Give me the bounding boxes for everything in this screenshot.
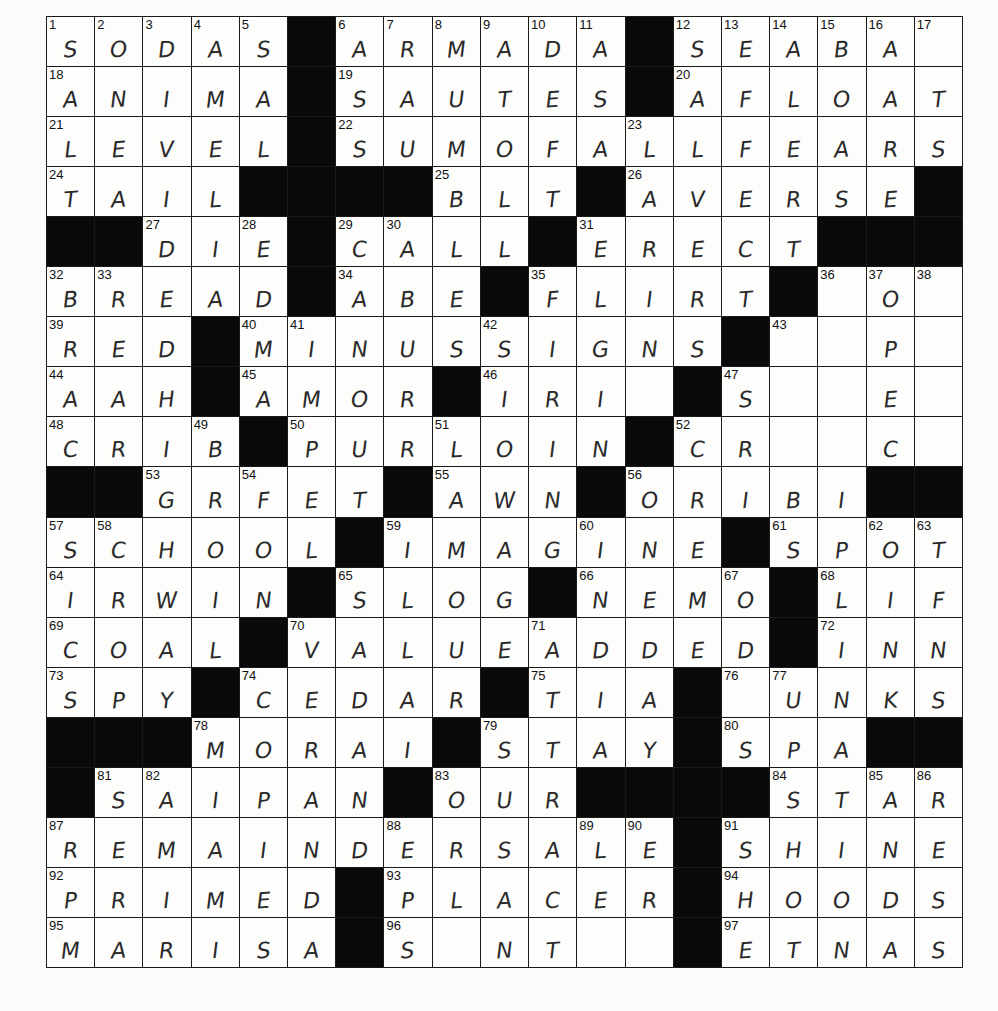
grid-cell[interactable]: U	[433, 618, 480, 667]
grid-cell[interactable]: B	[770, 467, 817, 516]
grid-cell[interactable]: H	[143, 518, 190, 567]
grid-cell[interactable]: S	[481, 818, 528, 867]
grid-cell[interactable]: U	[433, 67, 480, 116]
grid-cell[interactable]: 7R	[384, 17, 431, 66]
grid-cell[interactable]: R	[288, 718, 335, 767]
grid-cell[interactable]: S	[915, 668, 962, 717]
grid-cell[interactable]: I	[384, 718, 431, 767]
grid-cell[interactable]: R	[95, 868, 142, 917]
grid-cell[interactable]: 89L	[577, 818, 624, 867]
grid-cell[interactable]: 97E	[722, 918, 769, 967]
grid-cell[interactable]: 67O	[722, 568, 769, 617]
grid-cell[interactable]: 91S	[722, 818, 769, 867]
grid-cell[interactable]: A	[336, 718, 383, 767]
grid-cell[interactable]: 51L	[433, 417, 480, 466]
grid-cell[interactable]: E	[192, 117, 239, 166]
grid-cell[interactable]: D	[288, 868, 335, 917]
grid-cell[interactable]: 96S	[384, 918, 431, 967]
grid-cell[interactable]: R	[674, 467, 721, 516]
grid-cell[interactable]: M	[433, 117, 480, 166]
grid-cell[interactable]: U	[384, 317, 431, 366]
grid-cell[interactable]: 6A	[336, 17, 383, 66]
grid-cell[interactable]: 71A	[529, 618, 576, 667]
grid-cell[interactable]: U	[384, 117, 431, 166]
grid-cell[interactable]: 63T	[915, 518, 962, 567]
grid-cell[interactable]: E	[240, 868, 287, 917]
grid-cell[interactable]: 79S	[481, 718, 528, 767]
grid-cell[interactable]	[818, 417, 865, 466]
grid-cell[interactable]: L	[481, 167, 528, 216]
grid-cell[interactable]: 92P	[47, 868, 94, 917]
grid-cell[interactable]: 14A	[770, 17, 817, 66]
grid-cell[interactable]: I	[192, 217, 239, 266]
grid-cell[interactable]: N	[95, 67, 142, 116]
grid-cell[interactable]: 38	[915, 267, 962, 316]
grid-cell[interactable]: 33R	[95, 267, 142, 316]
grid-cell[interactable]: N	[626, 518, 673, 567]
grid-cell[interactable]: R	[626, 868, 673, 917]
grid-cell[interactable]: E	[433, 267, 480, 316]
grid-cell[interactable]: 68L	[818, 568, 865, 617]
grid-cell[interactable]: A	[529, 818, 576, 867]
grid-cell[interactable]: A	[192, 818, 239, 867]
grid-cell[interactable]: 16A	[867, 17, 914, 66]
grid-cell[interactable]: N	[915, 618, 962, 667]
grid-cell[interactable]: I	[626, 267, 673, 316]
grid-cell[interactable]: 59I	[384, 518, 431, 567]
grid-cell[interactable]: 69C	[47, 618, 94, 667]
grid-cell[interactable]: O	[95, 618, 142, 667]
grid-cell[interactable]: S	[577, 67, 624, 116]
grid-cell[interactable]: I	[143, 67, 190, 116]
grid-cell[interactable]: L	[384, 618, 431, 667]
grid-cell[interactable]: V	[674, 167, 721, 216]
grid-cell[interactable]: 93P	[384, 868, 431, 917]
grid-cell[interactable]: I	[143, 167, 190, 216]
grid-cell[interactable]: F	[915, 568, 962, 617]
grid-cell[interactable]: V	[143, 117, 190, 166]
grid-cell[interactable]: 9A	[481, 17, 528, 66]
grid-cell[interactable]: I	[577, 367, 624, 416]
grid-cell[interactable]: M	[288, 367, 335, 416]
grid-cell[interactable]: T	[915, 67, 962, 116]
grid-cell[interactable]: L	[192, 167, 239, 216]
grid-cell[interactable]: I	[192, 768, 239, 817]
grid-cell[interactable]: 2O	[95, 17, 142, 66]
grid-cell[interactable]	[915, 367, 962, 416]
grid-cell[interactable]: L	[481, 217, 528, 266]
grid-cell[interactable]: L	[192, 618, 239, 667]
grid-cell[interactable]: 41I	[288, 317, 335, 366]
grid-cell[interactable]: R	[674, 267, 721, 316]
grid-cell[interactable]: E	[95, 317, 142, 366]
grid-cell[interactable]: C	[529, 868, 576, 917]
grid-cell[interactable]: N	[288, 818, 335, 867]
grid-cell[interactable]: M	[192, 67, 239, 116]
grid-cell[interactable]: I	[577, 668, 624, 717]
grid-cell[interactable]: R	[384, 367, 431, 416]
grid-cell[interactable]: 34A	[336, 267, 383, 316]
grid-cell[interactable]: E	[143, 267, 190, 316]
grid-cell[interactable]: 56O	[626, 467, 673, 516]
grid-cell[interactable]: D	[143, 317, 190, 366]
grid-cell[interactable]: 36	[818, 267, 865, 316]
grid-cell[interactable]: I	[818, 467, 865, 516]
grid-cell[interactable]: R	[95, 417, 142, 466]
grid-cell[interactable]: E	[915, 818, 962, 867]
grid-cell[interactable]: 8M	[433, 17, 480, 66]
grid-cell[interactable]: R	[770, 167, 817, 216]
grid-cell[interactable]: I	[529, 317, 576, 366]
grid-cell[interactable]: W	[143, 568, 190, 617]
grid-cell[interactable]: 44A	[47, 367, 94, 416]
grid-cell[interactable]: N	[577, 417, 624, 466]
grid-cell[interactable]: D	[722, 618, 769, 667]
grid-cell[interactable]: D	[577, 618, 624, 667]
grid-cell[interactable]: D	[336, 668, 383, 717]
grid-cell[interactable]: E	[867, 167, 914, 216]
grid-cell[interactable]: A	[818, 718, 865, 767]
grid-cell[interactable]	[770, 367, 817, 416]
grid-cell[interactable]: L	[288, 518, 335, 567]
grid-cell[interactable]: A	[577, 117, 624, 166]
grid-cell[interactable]: H	[770, 818, 817, 867]
grid-cell[interactable]: D	[867, 868, 914, 917]
grid-cell[interactable]: L	[433, 217, 480, 266]
grid-cell[interactable]: A	[577, 718, 624, 767]
